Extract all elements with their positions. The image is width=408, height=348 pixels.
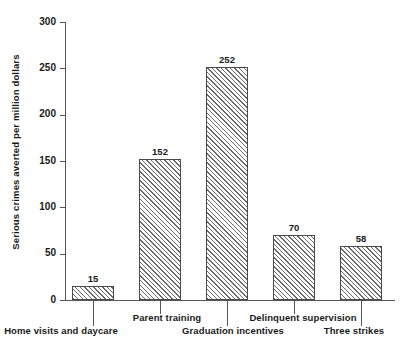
x-category-label-home-visits-and-daycare: Home visits and daycare [0, 325, 149, 336]
y-tick-mark-0 [60, 300, 65, 301]
y-tick-label-0: 0 [30, 295, 56, 305]
bar-graduation-incentives [206, 67, 248, 301]
bar-home-visits-and-daycare [72, 286, 114, 300]
bar-parent-training [139, 159, 181, 300]
bar-value-delinquent-supervision: 70 [273, 223, 315, 233]
x-category-label-three-strikes: Three strikes [300, 325, 408, 336]
bar-value-graduation-incentives: 252 [206, 55, 248, 65]
bar-value-parent-training: 152 [139, 147, 181, 157]
y-tick-label-200: 200 [30, 109, 56, 119]
y-tick-label-100: 100 [30, 202, 56, 212]
x-axis-line [65, 300, 395, 301]
y-axis-title: Serious crimes averted per million dolla… [8, 2, 24, 302]
y-tick-mark-100 [60, 207, 65, 208]
y-tick-label-150: 150 [30, 156, 56, 166]
y-axis-line [65, 22, 66, 300]
x-category-label-graduation-incentives: Graduation incentives [154, 325, 312, 336]
y-tick-mark-250 [60, 68, 65, 69]
bar-delinquent-supervision [273, 235, 315, 300]
y-tick-mark-150 [60, 161, 65, 162]
bar-value-three-strikes: 58 [340, 234, 382, 244]
y-tick-mark-50 [60, 254, 65, 255]
y-tick-mark-300 [60, 22, 65, 23]
y-tick-label-300: 300 [30, 17, 56, 27]
bar-three-strikes [340, 246, 382, 300]
y-tick-mark-200 [60, 115, 65, 116]
plot-area: 15 152 252 70 58 [65, 22, 395, 300]
x-category-label-delinquent-supervision: Delinquent supervision [218, 312, 388, 323]
y-tick-label-250: 250 [30, 63, 56, 73]
bar-value-home-visits-and-daycare: 15 [72, 274, 114, 284]
y-tick-label-50: 50 [30, 248, 56, 258]
bar-chart: Serious crimes averted per million dolla… [0, 0, 408, 348]
